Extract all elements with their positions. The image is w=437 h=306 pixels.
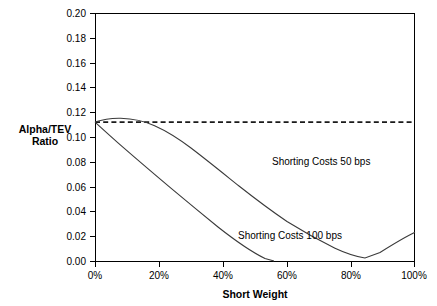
- x-axis-tick-labels: 0% 20% 40% 60% 80% 100%: [88, 270, 427, 281]
- y-axis-ticks: [90, 14, 95, 262]
- y-tick-label: 0.20: [67, 8, 87, 19]
- y-tick-label: 0.02: [67, 231, 87, 242]
- x-tick-label: 20%: [149, 270, 169, 281]
- x-axis-title: Short Weight: [222, 288, 288, 300]
- plot-axes: [95, 13, 415, 262]
- y-tick-label: 0.06: [67, 182, 87, 193]
- y-tick-label: 0.18: [67, 33, 87, 44]
- x-tick-label: 100%: [401, 270, 427, 281]
- y-tick-label: 0.00: [67, 256, 87, 267]
- y-tick-label: 0.12: [67, 107, 87, 118]
- y-tick-label: 0.16: [67, 58, 87, 69]
- chart-figure: 0.20 0.18 0.16 0.14 0.12 0.10 0.08 0.06 …: [0, 0, 437, 306]
- y-axis-title-line1: Alpha/TEV: [19, 123, 72, 135]
- y-tick-label: 0.08: [67, 157, 87, 168]
- x-tick-label: 0%: [88, 270, 103, 281]
- y-axis-tick-labels: 0.20 0.18 0.16 0.14 0.12 0.10 0.08 0.06 …: [67, 8, 87, 267]
- x-tick-label: 80%: [341, 270, 361, 281]
- y-tick-label: 0.04: [67, 206, 87, 217]
- y-tick-label: 0.14: [67, 82, 87, 93]
- x-tick-label: 60%: [277, 270, 297, 281]
- series-annotation-100bps: Shorting Costs 100 bps: [238, 230, 342, 241]
- y-axis-title-line2: Ratio: [32, 135, 58, 147]
- x-tick-label: 40%: [213, 270, 233, 281]
- series-annotation-50bps: Shorting Costs 50 bps: [272, 156, 370, 167]
